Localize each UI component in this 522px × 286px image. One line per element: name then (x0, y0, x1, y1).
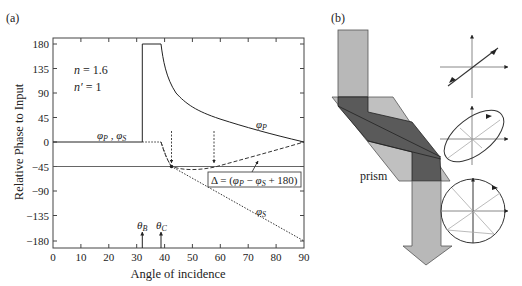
svg-text:30: 30 (131, 251, 143, 263)
panel-a: (a) 180 135 90 45 0 −45 −90 −135 −180 (6, 11, 310, 281)
svg-text:60: 60 (215, 251, 227, 263)
svg-text:90: 90 (299, 251, 311, 263)
polarization-elliptical (435, 100, 512, 171)
label-theta-b: θB (137, 219, 147, 233)
arrow-head-icon (490, 49, 497, 55)
param-n-prime: n′ = 1 (74, 80, 101, 94)
x-ticks (81, 38, 276, 248)
panel-b-label: (b) (331, 11, 345, 25)
svg-text:90: 90 (38, 87, 50, 99)
svg-text:135: 135 (33, 63, 50, 75)
y-axis-title: Relative Phase to Input (12, 83, 26, 200)
figure: (a) 180 135 90 45 0 −45 −90 −135 −180 (0, 0, 522, 286)
svg-text:10: 10 (75, 251, 87, 263)
panel-a-label: (a) (6, 11, 19, 25)
svg-text:70: 70 (243, 251, 255, 263)
label-theta-c: θC (156, 219, 167, 233)
param-n: n = 1.6 (74, 63, 108, 77)
series-delta (161, 142, 304, 170)
svg-text:−45: −45 (32, 161, 50, 173)
intersection-dot (170, 165, 174, 169)
polarization-circular (441, 178, 508, 243)
svg-text:0: 0 (50, 251, 56, 263)
svg-text:40: 40 (159, 251, 171, 263)
svg-text:−135: −135 (26, 210, 49, 222)
svg-text:0: 0 (44, 136, 50, 148)
y-tick-labels: 180 135 90 45 0 −45 −90 −135 −180 (26, 38, 49, 247)
x-axis-title: Angle of incidence (130, 267, 226, 281)
svg-text:45: 45 (38, 112, 50, 124)
label-phi-p: φP (256, 118, 267, 132)
svg-text:−90: −90 (32, 185, 50, 197)
arrow-head-icon (486, 114, 492, 119)
svg-text:80: 80 (271, 251, 283, 263)
incoming-beam (338, 30, 368, 97)
label-phi-s: φS (256, 205, 266, 219)
svg-text:20: 20 (103, 251, 115, 263)
panel-b: (b) prism (331, 11, 513, 265)
svg-text:50: 50 (187, 251, 199, 263)
label-phi-p-phi-s: φP , φS (97, 129, 126, 143)
svg-text:180: 180 (33, 38, 50, 50)
outgoing-beam-arrow (403, 181, 452, 265)
polarization-linear (440, 35, 508, 98)
prism-label: prism (360, 169, 388, 183)
x-tick-labels: 0 10 20 30 40 50 60 70 80 90 (50, 251, 310, 263)
svg-text:−180: −180 (26, 235, 49, 247)
delta-label: Δ = (φP − φS + 180) (211, 174, 298, 188)
